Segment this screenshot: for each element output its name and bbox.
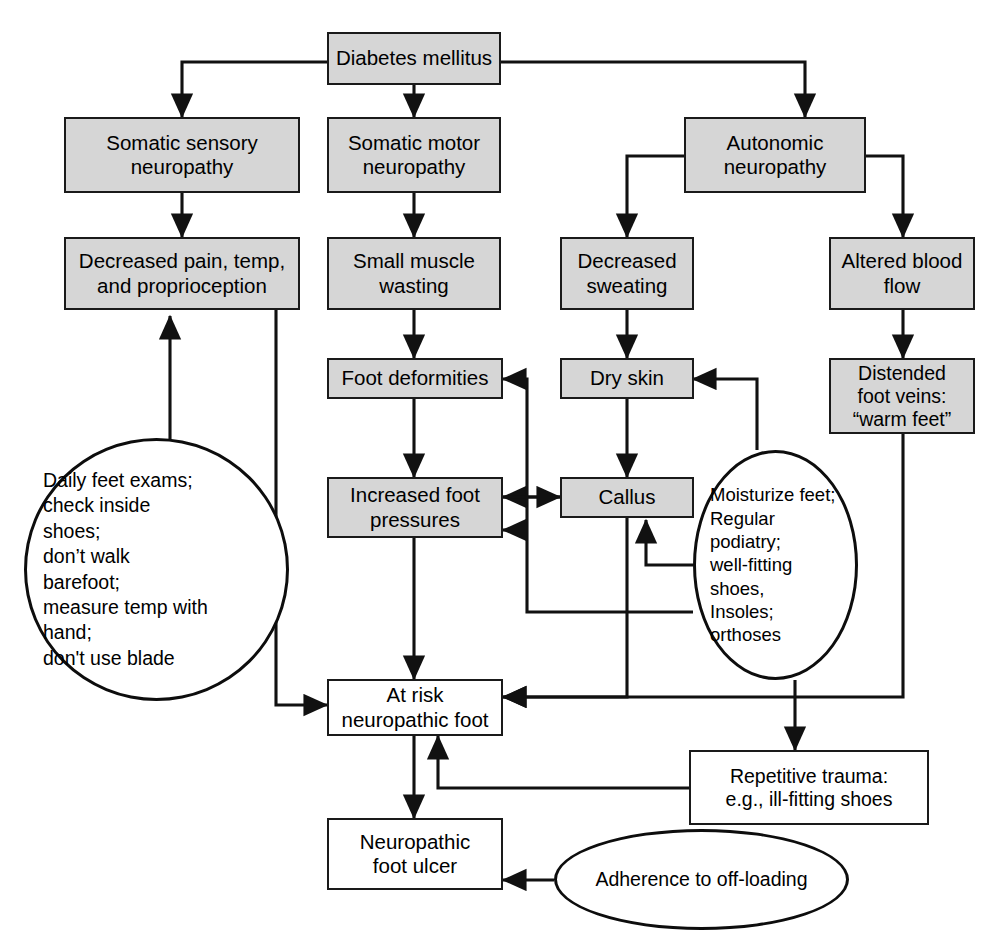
- node-decreased-sweating[interactable]: Decreased sweating: [560, 237, 694, 310]
- node-label: Somatic motor neuropathy: [329, 131, 499, 179]
- node-at-risk-neuropathic-foot[interactable]: At risk neuropathic foot: [327, 679, 503, 736]
- node-label: Small muscle wasting: [329, 249, 499, 297]
- ellipse-label: Daily feet exams; check inside shoes; do…: [27, 468, 286, 671]
- node-decreased-pain-temp-proprioception[interactable]: Decreased pain, temp, and proprioception: [64, 237, 300, 310]
- node-adherence-to-offloading[interactable]: Adherence to off-loading: [554, 829, 849, 930]
- node-autonomic-neuropathy[interactable]: Autonomic neuropathy: [684, 117, 866, 193]
- edge-footcare-to-dry-skin: [693, 379, 757, 450]
- node-label: Autonomic neuropathy: [686, 131, 864, 179]
- node-somatic-sensory-neuropathy[interactable]: Somatic sensory neuropathy: [64, 117, 300, 193]
- node-label: Repetitive trauma: e.g., ill-fitting sho…: [691, 765, 927, 811]
- node-dry-skin[interactable]: Dry skin: [560, 358, 694, 399]
- node-label: Callus: [562, 485, 692, 509]
- node-label: Diabetes mellitus: [329, 46, 499, 70]
- node-somatic-motor-neuropathy[interactable]: Somatic motor neuropathy: [327, 117, 501, 193]
- node-label: Dry skin: [562, 366, 692, 390]
- node-callus[interactable]: Callus: [560, 477, 694, 518]
- node-label: Increased foot pressures: [329, 483, 501, 531]
- edge-repetitive-trauma-to-at-risk: [438, 736, 689, 788]
- node-label: Decreased sweating: [562, 249, 692, 297]
- node-increased-foot-pressures[interactable]: Increased foot pressures: [327, 477, 503, 538]
- node-label: Decreased pain, temp, and proprioception: [66, 249, 298, 297]
- edge-callus-to-at-risk: [503, 518, 627, 697]
- edge-footcare-to-callus: [646, 520, 693, 565]
- node-label: Distended foot veins: “warm feet”: [831, 362, 973, 431]
- flowchart-canvas: Diabetes mellitus Somatic sensory neurop…: [0, 0, 989, 942]
- node-diabetes-mellitus[interactable]: Diabetes mellitus: [327, 32, 501, 85]
- node-altered-blood-flow[interactable]: Altered blood flow: [829, 237, 975, 310]
- edge-autonomic-to-altered-blood: [866, 156, 903, 237]
- node-label: Foot deformities: [329, 366, 501, 390]
- node-foot-care-recommendations[interactable]: Moisturize feet; Regular podiatry; well-…: [693, 450, 858, 680]
- node-foot-deformities[interactable]: Foot deformities: [327, 358, 503, 399]
- ellipse-label: Moisturize feet; Regular podiatry; well-…: [696, 483, 855, 646]
- node-label: At risk neuropathic foot: [329, 683, 501, 731]
- node-small-muscle-wasting[interactable]: Small muscle wasting: [327, 237, 501, 310]
- node-label: Somatic sensory neuropathy: [66, 131, 298, 179]
- node-self-care-recommendations[interactable]: Daily feet exams; check inside shoes; do…: [24, 438, 289, 701]
- node-label: Altered blood flow: [831, 249, 973, 297]
- edge-diabetes-to-autonomic: [501, 62, 805, 117]
- edge-autonomic-to-decreased-sweating: [627, 156, 684, 237]
- node-label: Neuropathic foot ulcer: [329, 830, 501, 878]
- ellipse-label: Adherence to off-loading: [557, 868, 846, 891]
- node-distended-foot-veins[interactable]: Distended foot veins: “warm feet”: [829, 358, 975, 434]
- node-repetitive-trauma[interactable]: Repetitive trauma: e.g., ill-fitting sho…: [689, 750, 929, 825]
- edge-diabetes-to-somatic-sensory: [182, 62, 327, 117]
- node-neuropathic-foot-ulcer[interactable]: Neuropathic foot ulcer: [327, 818, 503, 890]
